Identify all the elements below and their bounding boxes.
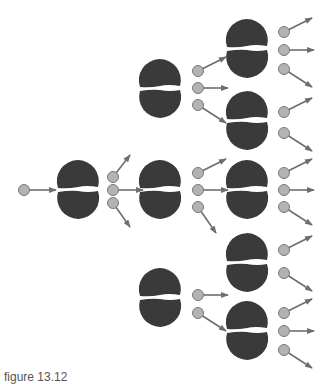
nucleus-bottom-half [226,264,268,292]
neutron [279,64,313,88]
nucleus-top-half [139,268,181,296]
nucleus-gen3-n3 [226,160,268,219]
neutron [279,18,313,38]
nucleus-top-half [226,233,268,261]
neutron-icon [279,202,290,213]
nucleus-bottom-half [57,191,99,219]
neutron [279,268,313,292]
neutron-icon [108,172,119,183]
neutron-icon [108,198,119,209]
neutron [19,185,57,196]
neutron [193,100,227,124]
neutron [279,202,313,226]
neutron-icon [279,308,290,319]
neutron-icon [279,64,290,75]
nucleus-top-half [139,160,181,188]
neutron [193,290,229,301]
nucleus-bottom-half [226,50,268,78]
neutron [279,45,315,56]
neutron-icon [279,268,290,279]
nucleus-gen3-n2 [226,91,268,150]
neutron-icon [193,83,204,94]
neutron [193,57,227,77]
nucleus-gen2-n2 [139,160,181,219]
neutron [108,155,131,183]
neutron-icon [279,326,290,337]
neutron-icon [279,168,290,179]
figure-caption: figure 13.12 [4,370,67,384]
nucleus-bottom-half [226,122,268,150]
neutron-icon [193,185,204,196]
neutron [279,98,313,118]
neutron-icon [279,245,290,256]
neutron-icon [279,185,290,196]
neutron-icon [279,128,290,139]
nucleus-gen3-n4 [226,233,268,292]
neutron [193,202,217,234]
neutron [279,236,313,256]
nucleus-top-half [226,160,268,188]
nucleus-bottom-half [139,90,181,118]
neutron [279,345,313,369]
nucleus-top-half [57,160,99,188]
neutron [279,185,315,196]
neutron [193,83,229,94]
neutron-icon [19,185,30,196]
nucleus-bottom-half [226,191,268,219]
neutron-icon [193,100,204,111]
nucleus-top-half [226,19,268,47]
nucleus-top-half [226,91,268,119]
neutron [108,185,144,196]
nucleus-gen3-n1 [226,19,268,78]
neutron [279,128,313,152]
neutron [108,198,131,228]
nucleus-bottom-half [139,299,181,327]
neutron-icon [193,290,204,301]
neutron-icon [279,27,290,38]
nucleus-gen2-n1 [139,59,181,118]
neutron [193,185,229,196]
neutron-icon [193,168,204,179]
neutron-icon [279,107,290,118]
diagram-layer [19,18,315,368]
nucleus-gen1-n1 [57,160,99,219]
neutron-icon [108,185,119,196]
neutron-icon [193,308,204,319]
neutron [193,159,227,179]
neutron [279,326,315,337]
nucleus-gen3-n5 [226,301,268,360]
neutron [193,308,227,332]
neutron-icon [279,45,290,56]
neutron [279,299,313,319]
nucleus-bottom-half [226,332,268,360]
nucleus-bottom-half [139,191,181,219]
neutron-icon [193,66,204,77]
nucleus-gen2-n3 [139,268,181,327]
nucleus-top-half [226,301,268,329]
neutron-icon [279,345,290,356]
neutron-icon [193,202,204,213]
neutron [279,159,313,179]
nucleus-top-half [139,59,181,87]
